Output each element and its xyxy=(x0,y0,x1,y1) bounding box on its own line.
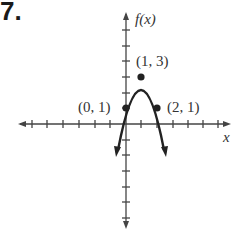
point-2-1 xyxy=(153,104,160,111)
y-axis-label: f(x) xyxy=(135,11,156,28)
point-0-1-label: (0, 1) xyxy=(78,99,111,116)
y-axis xyxy=(122,14,130,226)
y-axis-down-arrow-icon xyxy=(123,221,129,229)
y-axis-up-arrow-icon xyxy=(123,12,129,20)
point-2-1-label: (2, 1) xyxy=(167,99,200,116)
parabola-graph: f(x) x (1, 3) (0, 1) (2, 1) xyxy=(0,0,233,231)
curve-right-arrow-icon xyxy=(161,146,168,157)
x-axis-right-arrow-icon xyxy=(223,121,231,127)
x-axis-label: x xyxy=(222,129,230,145)
point-0-1 xyxy=(122,104,129,111)
x-axis-left-arrow-icon xyxy=(18,121,26,127)
curve-left-arrow-icon xyxy=(114,146,121,157)
vertex-label: (1, 3) xyxy=(136,53,169,70)
point-vertex-1-3 xyxy=(137,73,144,80)
